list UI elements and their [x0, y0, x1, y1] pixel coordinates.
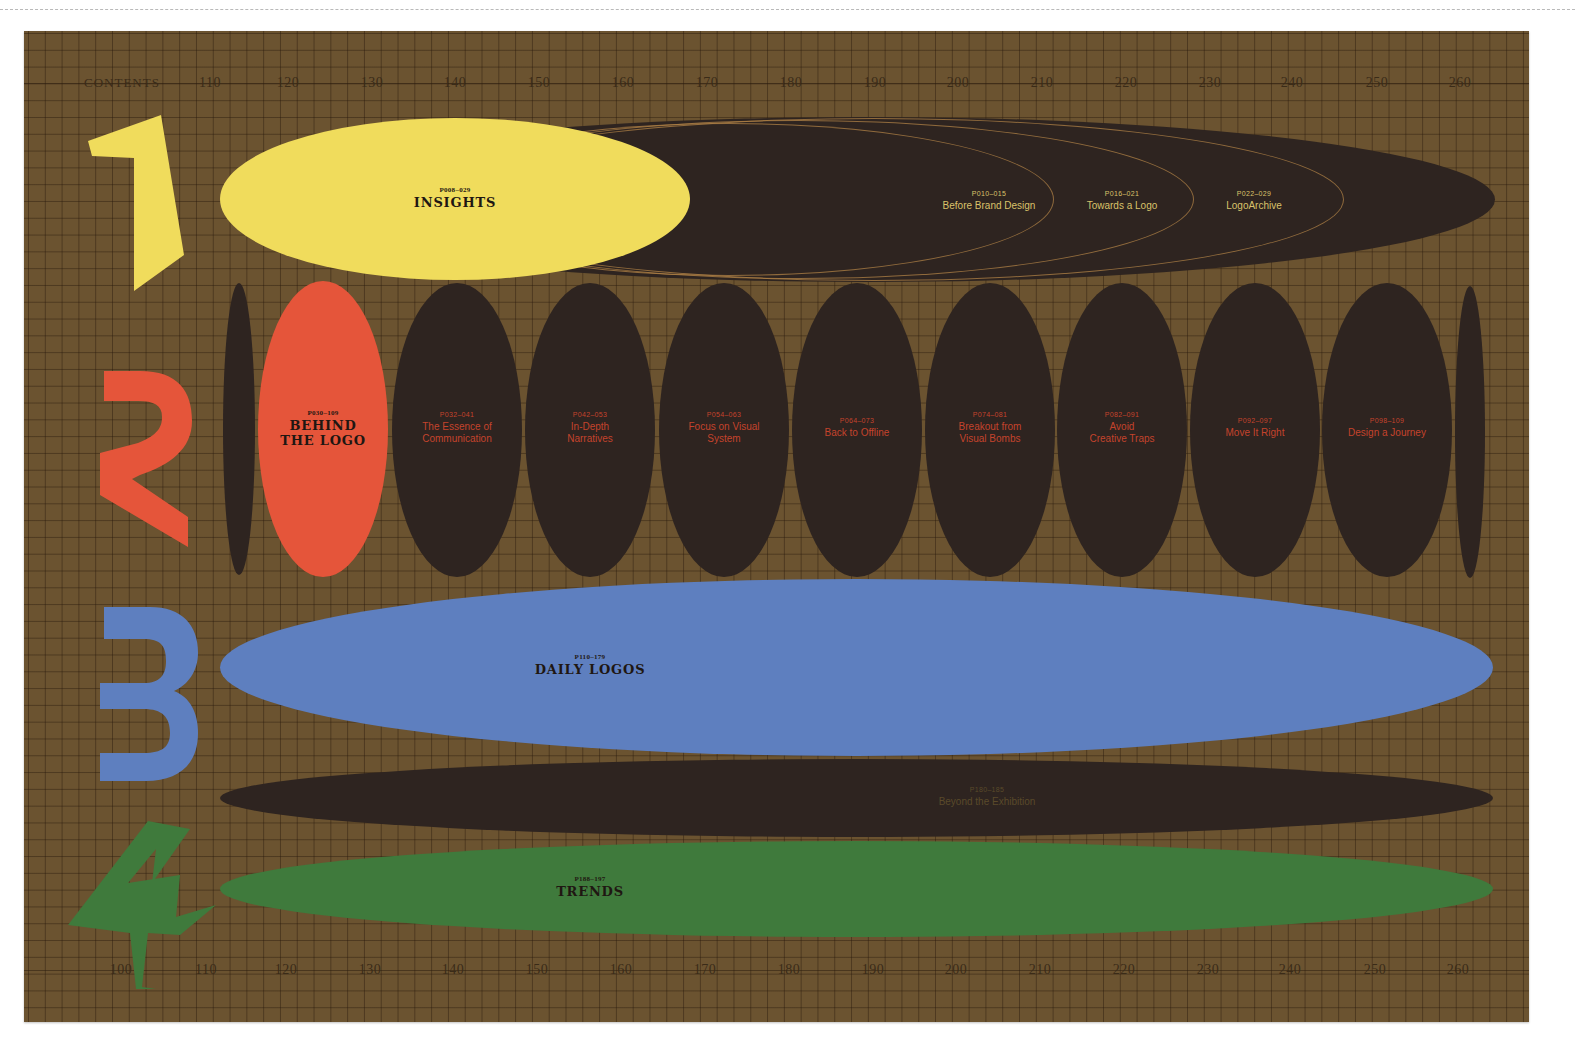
section-1-pages: P008–029	[414, 186, 496, 194]
ruler-top: CONTENTS 110 120 130 140 150 160 170 180…	[24, 75, 1529, 95]
ruler-tick: 190	[862, 962, 885, 978]
chapter-title: Breakout from	[959, 422, 1022, 434]
chapter-title: The Essence of	[422, 422, 491, 434]
ruler-tick: 180	[778, 962, 801, 978]
chapter-label[interactable]: P022–029 LogoArchive	[1226, 190, 1282, 212]
ruler-tick: 170	[694, 962, 717, 978]
chapter-label[interactable]: P082–091 Avoid Creative Traps	[1089, 411, 1154, 444]
ruler-tick: 190	[864, 75, 887, 91]
chapter-title: System	[689, 433, 760, 445]
chapter-pages: P022–029	[1226, 190, 1282, 198]
ruler-tick: 170	[696, 75, 719, 91]
ruler-tick: 210	[1029, 962, 1052, 978]
section-4-extra-ellipse[interactable]	[220, 759, 1493, 837]
ruler-tick: 250	[1364, 962, 1387, 978]
section-2-label[interactable]: P030–109 BEHIND THE LOGO	[280, 409, 366, 449]
section-2-pages: P030–109	[280, 409, 366, 417]
chapter-pages: P042–053	[567, 411, 613, 419]
chapter-label[interactable]: P074–081 Breakout from Visual Bombs	[959, 411, 1022, 444]
chapter-pages: P054–063	[689, 411, 760, 419]
chapter-title: Beyond the Exhibition	[939, 796, 1036, 808]
chapter-title: Visual Bombs	[959, 433, 1022, 445]
section-4-label[interactable]: P188–197 TRENDS	[556, 875, 624, 900]
chapter-pages: P064–073	[825, 417, 890, 425]
page-top-rule	[0, 9, 1575, 10]
ruler-tick: 260	[1449, 75, 1472, 91]
chapter-pages: P010–015	[943, 190, 1036, 198]
chapter-label[interactable]: P032–041 The Essence of Communication	[422, 411, 491, 444]
ruler-tick: 220	[1113, 962, 1136, 978]
section-2-title-line2: THE LOGO	[280, 434, 366, 449]
chapter-label[interactable]: P054–063 Focus on Visual System	[689, 411, 760, 444]
section-1-title: INSIGHTS	[414, 196, 496, 211]
chapter-pages: P082–091	[1089, 411, 1154, 419]
contents-board: CONTENTS 110 120 130 140 150 160 170 180…	[24, 31, 1529, 1022]
section-3-label[interactable]: P110–179 DAILY LOGOS	[535, 653, 646, 678]
ruler-tick: 230	[1197, 962, 1220, 978]
chapter-title: Before Brand Design	[943, 200, 1036, 212]
chapter-title: Communication	[422, 433, 491, 445]
ruler-tick: 120	[275, 962, 298, 978]
chapter-title: Move It Right	[1226, 427, 1285, 439]
section-1-label[interactable]: P008–029 INSIGHTS	[414, 186, 496, 211]
section-4-pages: P188–197	[556, 875, 624, 883]
chapter-title: Back to Offline	[825, 427, 890, 439]
chapter-label[interactable]: P016–021 Towards a Logo	[1087, 190, 1158, 212]
ruler-tick: 160	[612, 75, 635, 91]
chapter-title: Towards a Logo	[1087, 200, 1158, 212]
ruler-tick: 150	[526, 962, 549, 978]
ruler-tick: 220	[1115, 75, 1138, 91]
section-3-title: DAILY LOGOS	[535, 663, 646, 678]
chapter-title: Design a Journey	[1348, 427, 1426, 439]
section-4-title: TRENDS	[556, 885, 624, 900]
section-number-4-icon	[68, 821, 218, 989]
ruler-tick: 120	[277, 75, 300, 91]
section-number-2-icon	[100, 369, 195, 549]
chapter-pages: P032–041	[422, 411, 491, 419]
section-3-ellipse[interactable]	[220, 579, 1493, 756]
section-3-pages: P110–179	[535, 653, 646, 661]
chapter-title: Narratives	[567, 433, 613, 445]
ruler-tick: 130	[359, 962, 382, 978]
section-4-extra-label[interactable]: P180–185 Beyond the Exhibition	[939, 786, 1036, 808]
section-number-3-icon	[100, 605, 200, 785]
ruler-tick: 140	[444, 75, 467, 91]
chapter-title: Avoid	[1089, 422, 1154, 434]
ruler-tick: 150	[528, 75, 551, 91]
chapter-title: Creative Traps	[1089, 433, 1154, 445]
chapter-pages: P180–185	[939, 786, 1036, 794]
contents-label: CONTENTS	[84, 75, 160, 91]
chapter-title: Focus on Visual	[689, 422, 760, 434]
ruler-bottom: 100 110 120 130 140 150 160 170 180 190 …	[24, 962, 1529, 982]
section-4-ellipse[interactable]	[220, 841, 1493, 937]
ruler-tick: 140	[442, 962, 465, 978]
chapter-label[interactable]: P098–109 Design a Journey	[1348, 417, 1426, 439]
chapter-pages: P098–109	[1348, 417, 1426, 425]
chapter-label[interactable]: P092–097 Move It Right	[1226, 417, 1285, 439]
chapter-label[interactable]: P042–053 In-Depth Narratives	[567, 411, 613, 444]
ruler-tick: 200	[947, 75, 970, 91]
ruler-tick: 250	[1366, 75, 1389, 91]
chapter-pages: P092–097	[1226, 417, 1285, 425]
chapter-title: LogoArchive	[1226, 200, 1282, 212]
ruler-tick: 110	[199, 75, 221, 91]
section-2-edge-ellipse	[223, 283, 255, 575]
chapter-label[interactable]: P010–015 Before Brand Design	[943, 190, 1036, 212]
chapter-pages: P016–021	[1087, 190, 1158, 198]
ruler-tick: 160	[610, 962, 633, 978]
ruler-tick: 240	[1279, 962, 1302, 978]
chapter-label[interactable]: P064–073 Back to Offline	[825, 417, 890, 439]
chapter-title: In-Depth	[567, 422, 613, 434]
ruler-tick: 230	[1199, 75, 1222, 91]
ruler-tick: 130	[361, 75, 384, 91]
section-2-edge-ellipse	[1455, 286, 1485, 578]
ruler-tick: 180	[780, 75, 803, 91]
section-number-1-icon	[86, 115, 186, 295]
ruler-tick: 240	[1281, 75, 1304, 91]
ruler-tick: 200	[945, 962, 968, 978]
ruler-tick: 210	[1031, 75, 1054, 91]
section-2-title-line1: BEHIND	[280, 419, 366, 434]
ruler-tick: 260	[1447, 962, 1470, 978]
chapter-pages: P074–081	[959, 411, 1022, 419]
